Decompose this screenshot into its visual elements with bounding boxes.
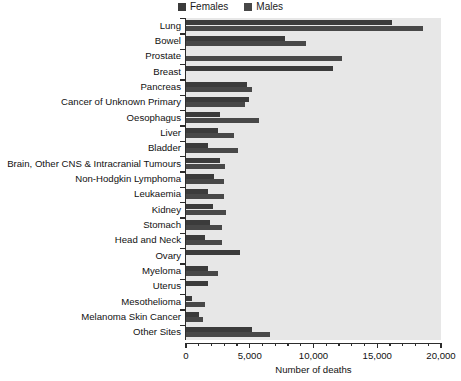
x-axis-title: Number of deaths bbox=[186, 364, 441, 375]
x-axis-tick-label: 10,000 bbox=[299, 350, 328, 361]
category-label: Mesothelioma bbox=[121, 297, 181, 307]
bar-females[interactable] bbox=[186, 296, 192, 301]
category-label: Melanoma Skin Cancer bbox=[81, 312, 181, 322]
legend-swatch-males bbox=[244, 3, 252, 11]
bar-males[interactable] bbox=[186, 41, 306, 46]
bar-males[interactable] bbox=[186, 102, 245, 107]
bar-females[interactable] bbox=[186, 281, 208, 286]
y-axis-tick bbox=[180, 156, 185, 157]
x-axis-tick-minor bbox=[415, 343, 416, 346]
bar-females[interactable] bbox=[186, 112, 220, 117]
y-axis-tick bbox=[180, 110, 185, 111]
x-axis-tick-major bbox=[313, 343, 314, 348]
bar-males[interactable] bbox=[186, 317, 203, 322]
bar-males[interactable] bbox=[186, 332, 270, 337]
y-axis-tick bbox=[180, 279, 185, 280]
y-axis-tick bbox=[180, 233, 185, 234]
x-axis-tick-minor bbox=[338, 343, 339, 346]
legend-item-males[interactable]: Males bbox=[244, 2, 283, 12]
x-axis-tick-major bbox=[377, 343, 378, 348]
category-label: Uterus bbox=[153, 281, 181, 291]
legend-swatch-females bbox=[178, 3, 186, 11]
category-label: Leukaemia bbox=[134, 189, 181, 199]
bar-males[interactable] bbox=[186, 148, 238, 153]
bar-females[interactable] bbox=[186, 20, 392, 25]
x-axis-tick-label: 0 bbox=[183, 350, 188, 361]
x-axis-tick-minor bbox=[211, 343, 212, 346]
category-label: Lung bbox=[160, 21, 181, 31]
bar-females[interactable] bbox=[186, 158, 220, 163]
bar-females[interactable] bbox=[186, 250, 240, 255]
y-axis-tick bbox=[180, 309, 185, 310]
y-axis-tick bbox=[180, 202, 185, 203]
bar-males[interactable] bbox=[186, 210, 226, 215]
bar-males[interactable] bbox=[186, 194, 224, 199]
x-axis-tick-minor bbox=[364, 343, 365, 346]
bar-males[interactable] bbox=[186, 118, 259, 123]
bar-females[interactable] bbox=[186, 128, 218, 133]
x-axis-tick-minor bbox=[224, 343, 225, 346]
bar-males[interactable] bbox=[186, 179, 224, 184]
category-label: Bowel bbox=[155, 36, 181, 46]
x-axis-tick-minor bbox=[262, 343, 263, 346]
bar-males[interactable] bbox=[186, 225, 222, 230]
x-axis-tick-minor bbox=[300, 343, 301, 346]
x-axis-tick-major bbox=[249, 343, 250, 348]
bar-males[interactable] bbox=[186, 56, 342, 61]
category-label: Oesophagus bbox=[127, 113, 181, 123]
bar-males[interactable] bbox=[186, 240, 222, 245]
bar-females[interactable] bbox=[186, 174, 214, 179]
bar-males[interactable] bbox=[186, 133, 234, 138]
category-label: Other Sites bbox=[133, 327, 181, 337]
category-label: Stomach bbox=[143, 220, 181, 230]
bar-males[interactable] bbox=[186, 26, 423, 31]
bar-females[interactable] bbox=[186, 266, 208, 271]
y-axis-tick bbox=[180, 141, 185, 142]
category-label: Head and Neck bbox=[115, 235, 181, 245]
bar-females[interactable] bbox=[186, 36, 285, 41]
bar-females[interactable] bbox=[186, 312, 199, 317]
y-axis-tick bbox=[180, 64, 185, 65]
chart-root: Females Males LungBowelProstateBreastPan… bbox=[0, 0, 461, 381]
category-label: Kidney bbox=[152, 205, 181, 215]
bar-females[interactable] bbox=[186, 220, 210, 225]
x-axis-tick-major bbox=[440, 343, 441, 348]
bar-females[interactable] bbox=[186, 204, 213, 209]
y-axis-tick bbox=[180, 95, 185, 96]
category-label: Bladder bbox=[148, 143, 181, 153]
bar-females[interactable] bbox=[186, 235, 205, 240]
y-axis-tick bbox=[180, 263, 185, 264]
category-label: Non-Hodgkin Lymphoma bbox=[75, 174, 181, 184]
bar-males[interactable] bbox=[186, 271, 218, 276]
x-axis-tick-minor bbox=[428, 343, 429, 346]
bar-females[interactable] bbox=[186, 327, 252, 332]
bar-females[interactable] bbox=[186, 143, 208, 148]
bar-males[interactable] bbox=[186, 164, 225, 169]
bar-females[interactable] bbox=[186, 189, 208, 194]
legend-label-females: Females bbox=[190, 2, 228, 12]
bar-females[interactable] bbox=[186, 66, 333, 71]
y-axis-tick bbox=[180, 49, 185, 50]
x-axis-tick-minor bbox=[198, 343, 199, 346]
x-axis-tick-label: 15,000 bbox=[363, 350, 392, 361]
bar-females[interactable] bbox=[186, 82, 247, 87]
plot-wrapper: LungBowelProstateBreastPancreasCancer of… bbox=[0, 18, 461, 343]
category-label: Ovary bbox=[155, 251, 181, 261]
x-axis-tick-minor bbox=[275, 343, 276, 346]
x-axis-tick-labels: 05,00010,00015,00020,000 bbox=[0, 350, 461, 363]
x-axis-tick-minor bbox=[402, 343, 403, 346]
bar-females[interactable] bbox=[186, 97, 249, 102]
x-axis-tick-minor bbox=[389, 343, 390, 346]
category-label: Pancreas bbox=[140, 82, 181, 92]
bar-males[interactable] bbox=[186, 302, 205, 307]
bar-males[interactable] bbox=[186, 87, 252, 92]
y-axis-tick bbox=[180, 171, 185, 172]
chart-legend: Females Males bbox=[0, 2, 461, 12]
x-axis-tick-minor bbox=[326, 343, 327, 346]
y-axis-ticks bbox=[180, 18, 186, 340]
legend-item-females[interactable]: Females bbox=[178, 2, 228, 12]
x-axis-tick-minor bbox=[236, 343, 237, 346]
x-axis-tick-minor bbox=[351, 343, 352, 346]
x-axis-tick-minor bbox=[287, 343, 288, 346]
x-axis-tick-major bbox=[185, 343, 186, 348]
